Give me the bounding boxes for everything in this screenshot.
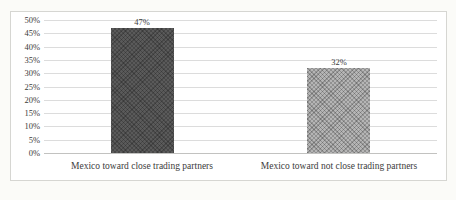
gridline bbox=[44, 73, 437, 74]
gridline bbox=[44, 100, 437, 101]
y-tick-label: 35% bbox=[11, 55, 40, 65]
y-tick-label: 40% bbox=[11, 42, 40, 52]
bar-2 bbox=[307, 68, 370, 153]
y-tick-label: 10% bbox=[11, 121, 40, 131]
gridline bbox=[44, 126, 437, 127]
y-tick-label: 25% bbox=[11, 82, 40, 92]
category-label: Mexico toward close trading partners bbox=[42, 160, 242, 172]
gridline bbox=[44, 113, 437, 114]
y-tick-label: 50% bbox=[11, 15, 40, 25]
page-background: 0%5%10%15%20%25%30%35%40%45%50%47%Mexico… bbox=[0, 0, 456, 200]
bar-value-label: 47% bbox=[112, 17, 172, 27]
bar-1 bbox=[111, 28, 174, 153]
y-tick-label: 20% bbox=[11, 95, 40, 105]
gridline bbox=[44, 20, 437, 21]
bar-value-label: 32% bbox=[309, 57, 369, 67]
category-label: Mexico toward not close trading partners bbox=[239, 160, 439, 172]
gridline bbox=[44, 140, 437, 141]
gridline bbox=[44, 33, 437, 34]
y-tick-label: 30% bbox=[11, 68, 40, 78]
gridline bbox=[44, 60, 437, 61]
bar-chart-frame: 0%5%10%15%20%25%30%35%40%45%50%47%Mexico… bbox=[10, 11, 447, 181]
y-tick-label: 15% bbox=[11, 108, 40, 118]
y-tick-label: 45% bbox=[11, 28, 40, 38]
x-axis-line bbox=[44, 153, 437, 154]
y-tick-label: 5% bbox=[11, 135, 40, 145]
y-tick-label: 0% bbox=[11, 148, 40, 158]
gridline bbox=[44, 47, 437, 48]
gridline bbox=[44, 87, 437, 88]
